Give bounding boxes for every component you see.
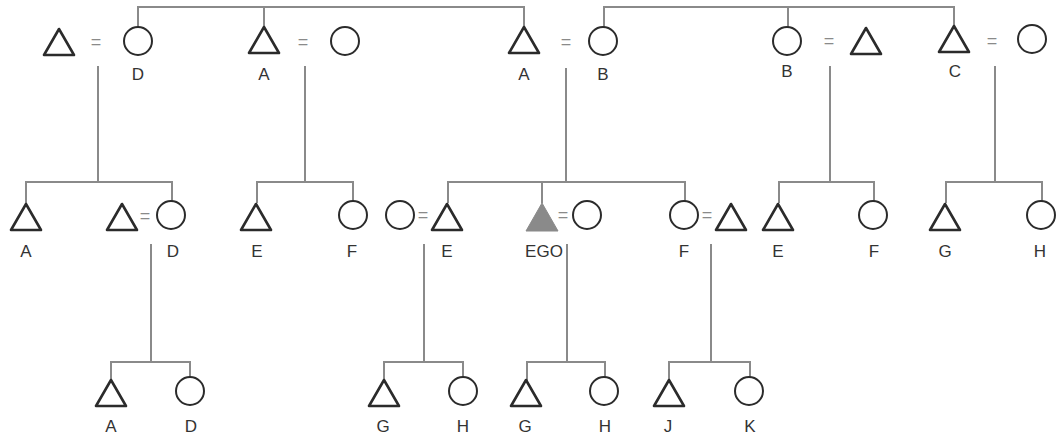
descent-line: [256, 181, 258, 203]
kinship-diagram: = D A = A = B B = C =: [0, 0, 1060, 448]
sibling-line: [110, 361, 190, 363]
marriage-sign: =: [415, 206, 431, 224]
label-F: F: [664, 243, 704, 260]
female-circle: [338, 200, 368, 230]
descent-line: [171, 181, 173, 201]
male-triangle: [849, 26, 883, 56]
descent-line: [25, 181, 27, 203]
marriage-sign: =: [88, 33, 104, 51]
female-circle: [156, 200, 186, 230]
male-triangle: [239, 202, 273, 232]
descent-line: [684, 181, 686, 201]
male-triangle: [42, 27, 76, 57]
marriage-sign: =: [555, 206, 571, 224]
label-H: H: [585, 418, 625, 435]
descent-line: [137, 6, 139, 28]
descent-line: [603, 6, 605, 28]
female-circle: [589, 376, 619, 406]
descent-line: [1041, 181, 1043, 201]
marriage-sign: =: [295, 33, 311, 51]
male-triangle: [247, 25, 281, 55]
descent-line: [150, 244, 152, 362]
descent-line: [97, 66, 99, 182]
male-triangle: [507, 25, 541, 55]
female-circle: [1026, 200, 1056, 230]
female-circle: [858, 200, 888, 230]
marriage-sign: =: [558, 33, 574, 51]
descent-line: [462, 361, 464, 377]
descent-line: [541, 181, 543, 203]
female-circle: [123, 26, 153, 56]
male-triangle: [928, 202, 962, 232]
female-circle: [385, 200, 415, 230]
female-circle: [588, 26, 618, 56]
male-triangle: [105, 202, 139, 232]
label-F: F: [332, 243, 372, 260]
descent-line: [189, 361, 191, 377]
ego-filled-triangle: [525, 202, 559, 232]
female-circle: [1017, 24, 1047, 54]
descent-line: [710, 244, 712, 362]
descent-line: [423, 244, 425, 362]
male-triangle: [714, 202, 748, 232]
sibling-line: [447, 181, 685, 183]
descent-line: [447, 181, 449, 203]
male-triangle: [509, 378, 543, 408]
female-circle: [572, 200, 602, 230]
male-triangle: [761, 202, 795, 232]
label-H: H: [443, 418, 483, 435]
marriage-sign: =: [137, 207, 153, 225]
descent-line: [749, 361, 751, 377]
marriage-sign: =: [699, 206, 715, 224]
descent-line: [565, 68, 567, 182]
label-E: E: [237, 243, 277, 260]
male-triangle: [937, 24, 971, 54]
label-A: A: [6, 243, 46, 260]
label-F: F: [854, 243, 894, 260]
descent-line: [945, 181, 947, 203]
descent-line: [829, 66, 831, 182]
label-B: B: [767, 63, 807, 80]
sibling-line: [945, 181, 1042, 183]
label-H: H: [1020, 243, 1060, 260]
descent-line: [778, 181, 780, 203]
female-circle: [734, 376, 764, 406]
male-triangle: [367, 378, 401, 408]
descent-line: [994, 66, 996, 182]
descent-line: [604, 361, 606, 377]
label-D: D: [171, 418, 211, 435]
sibling-line: [778, 181, 874, 183]
descent-line: [352, 181, 354, 201]
label-C: C: [935, 63, 975, 80]
female-circle: [330, 26, 360, 56]
sibling-line: [526, 361, 605, 363]
descent-line: [566, 244, 568, 362]
sibling-line-left: [137, 6, 525, 8]
sibling-line-right: [603, 6, 955, 8]
label-EGO: EGO: [522, 243, 566, 260]
female-circle: [448, 376, 478, 406]
label-K: K: [730, 418, 770, 435]
label-E: E: [758, 243, 798, 260]
sibling-line: [25, 181, 172, 183]
male-triangle: [94, 378, 128, 408]
marriage-sign: =: [984, 32, 1000, 50]
label-A: A: [91, 418, 131, 435]
label-G: G: [363, 418, 403, 435]
label-A: A: [244, 66, 284, 83]
marriage-sign: =: [821, 32, 837, 50]
label-D: D: [118, 66, 158, 83]
label-G: G: [505, 418, 545, 435]
label-D: D: [153, 243, 193, 260]
male-triangle: [9, 202, 43, 232]
sibling-line: [383, 361, 463, 363]
descent-line: [304, 66, 306, 182]
label-J: J: [648, 418, 688, 435]
label-G: G: [925, 243, 965, 260]
sibling-line: [256, 181, 353, 183]
sibling-line: [668, 361, 750, 363]
label-B: B: [583, 66, 623, 83]
female-circle: [175, 376, 205, 406]
female-circle: [669, 200, 699, 230]
label-A: A: [504, 66, 544, 83]
